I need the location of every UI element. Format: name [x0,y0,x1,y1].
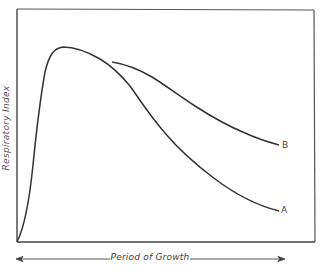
curve-b [112,62,279,145]
chart-canvas [0,0,321,268]
curve-a [17,47,279,242]
x-axis-label: Period of Growth [110,252,190,266]
y-axis-label: Respiratory Index [1,84,15,172]
plot-frame [17,9,315,242]
curve-b-label: B [282,140,288,150]
right-border [314,10,315,242]
curve-a-label: A [281,205,287,215]
top-border [17,9,314,10]
